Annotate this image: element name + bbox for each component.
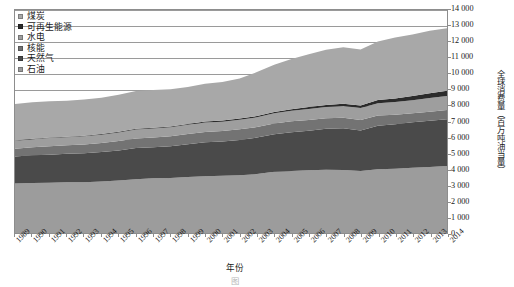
- y-tick-label: 1 000: [448, 212, 490, 224]
- y-axis: 01 0002 0003 0004 0005 0006 0007 0008 00…: [448, 9, 490, 234]
- stacked-area-figure: 煤炭可再生能源水电核能天然气石油 01 0002 0003 0004 0005 …: [0, 0, 514, 287]
- y-tick-label: 10 000: [448, 67, 490, 79]
- legend-item-renewables[interactable]: 可再生能源: [18, 22, 72, 33]
- legend-item-label: 水电: [27, 32, 45, 43]
- y-axis-title: 全球消费量（百万吨油当量）: [486, 9, 512, 234]
- legend-swatch-icon: [18, 67, 23, 72]
- legend-item-label: 石油: [27, 64, 45, 75]
- y-tick-label: 6 000: [448, 132, 490, 144]
- legend-item-oil[interactable]: 石油: [18, 64, 72, 75]
- legend-item-gas[interactable]: 天然气: [18, 53, 72, 64]
- stacked-areas: [15, 10, 447, 233]
- legend-swatch-icon: [18, 56, 23, 61]
- y-tick-label: 8 000: [448, 99, 490, 111]
- y-tick-label: 3 000: [448, 180, 490, 192]
- legend-swatch-icon: [18, 24, 23, 29]
- y-tick-label: 12 000: [448, 35, 490, 47]
- y-tick-label: 5 000: [448, 148, 490, 160]
- y-tick-label: 14 000: [448, 3, 490, 15]
- legend-item-label: 可再生能源: [27, 22, 72, 33]
- y-tick-label: 7 000: [448, 116, 490, 128]
- legend-item-nuclear[interactable]: 核能: [18, 43, 72, 54]
- legend-item-coal[interactable]: 煤炭: [18, 11, 72, 22]
- y-tick-label: 11 000: [448, 51, 490, 63]
- legend-item-label: 天然气: [27, 53, 54, 64]
- legend-item-label: 煤炭: [27, 11, 45, 22]
- y-tick-label: 9 000: [448, 83, 490, 95]
- legend-swatch-icon: [18, 46, 23, 51]
- figure-caption: 图: [0, 277, 470, 287]
- legend-swatch-icon: [18, 14, 23, 19]
- legend: 煤炭可再生能源水电核能天然气石油: [18, 11, 72, 75]
- legend-swatch-icon: [18, 35, 23, 40]
- legend-item-hydro[interactable]: 水电: [18, 32, 72, 43]
- y-tick-label: 13 000: [448, 19, 490, 31]
- y-tick-label: 4 000: [448, 164, 490, 176]
- y-tick-label: 2 000: [448, 196, 490, 208]
- plot-area: [14, 9, 448, 234]
- x-axis-title: 年份: [0, 263, 470, 274]
- y-axis-title-text: 全球消费量（百万吨油当量）: [494, 70, 504, 174]
- legend-item-label: 核能: [27, 43, 45, 54]
